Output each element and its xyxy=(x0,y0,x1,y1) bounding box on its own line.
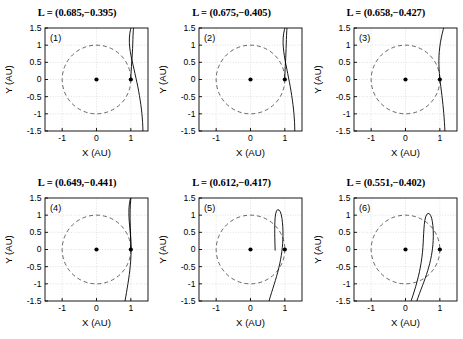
x-axis-label: X (AU) xyxy=(236,147,265,158)
y-tick-label: 1.5 xyxy=(184,23,196,33)
y-tick-label: -0.5 xyxy=(181,261,196,271)
sun-marker xyxy=(94,77,98,81)
y-tick-label: 1 xyxy=(345,210,350,220)
panel-number: (1) xyxy=(50,33,61,43)
y-axis-label: Y (AU) xyxy=(157,65,168,94)
y-axis-label: Y (AU) xyxy=(312,235,323,264)
sun-marker xyxy=(249,247,253,251)
y-tick-label: -1.5 xyxy=(181,295,196,305)
earth-marker xyxy=(129,247,133,251)
x-tick-label: -1 xyxy=(367,133,375,143)
x-tick-label: -1 xyxy=(58,133,66,143)
trajectory-panel-6: L = (0.551,−0.402)-1011.510.50-0.5-1-1.5… xyxy=(309,170,463,339)
trajectory-panel-1: L = (0.685,−0.395)-1011.510.50-0.5-1-1.5… xyxy=(0,0,154,170)
panel-row: L = (0.685,−0.395)-1011.510.50-0.5-1-1.5… xyxy=(0,0,463,170)
x-tick-label: 1 xyxy=(283,302,288,312)
y-tick-label: 0.5 xyxy=(338,227,350,237)
panel-plot: -1011.510.50-0.5-1-1.5X (AU)Y (AU)(3) xyxy=(309,0,463,170)
earth-marker xyxy=(437,77,441,81)
y-tick-label: 1 xyxy=(191,40,196,50)
panel-number: (2) xyxy=(204,33,215,43)
y-tick-label: -1 xyxy=(343,109,351,119)
y-tick-label: 0 xyxy=(191,75,196,85)
y-tick-label: 1 xyxy=(191,210,196,220)
sun-marker xyxy=(249,77,253,81)
x-tick-label: 1 xyxy=(437,133,442,143)
y-tick-label: 1 xyxy=(37,210,42,220)
y-tick-label: -1 xyxy=(343,278,351,288)
x-tick-label: 0 xyxy=(403,133,408,143)
y-tick-label: 0 xyxy=(191,244,196,254)
x-tick-label: 0 xyxy=(403,302,408,312)
y-tick-label: 0 xyxy=(345,75,350,85)
x-tick-label: -1 xyxy=(213,133,221,143)
trajectory-panel-2: L = (0.675,−0.405)-1011.510.50-0.5-1-1.5… xyxy=(154,0,308,170)
x-tick-label: -1 xyxy=(213,302,221,312)
sun-marker xyxy=(403,77,407,81)
x-tick-label: 1 xyxy=(283,133,288,143)
sun-marker xyxy=(94,247,98,251)
x-axis-label: X (AU) xyxy=(391,147,420,158)
panel-number: (4) xyxy=(50,203,61,213)
x-tick-label: 0 xyxy=(94,302,99,312)
trajectory-panel-4: L = (0.649,−0.441)-1011.510.50-0.5-1-1.5… xyxy=(0,170,154,339)
panel-plot: -1011.510.50-0.5-1-1.5X (AU)Y (AU)(2) xyxy=(154,0,308,170)
earth-marker xyxy=(129,77,133,81)
figure-panel-grid: L = (0.685,−0.395)-1011.510.50-0.5-1-1.5… xyxy=(0,0,463,339)
x-tick-label: 0 xyxy=(94,133,99,143)
y-tick-label: -0.5 xyxy=(27,261,42,271)
panel-row: L = (0.649,−0.441)-1011.510.50-0.5-1-1.5… xyxy=(0,170,463,339)
panel-number: (5) xyxy=(204,203,215,213)
y-tick-label: 1.5 xyxy=(338,193,350,203)
panel-plot: -1011.510.50-0.5-1-1.5X (AU)Y (AU)(4) xyxy=(0,170,154,339)
panel-plot: -1011.510.50-0.5-1-1.5X (AU)Y (AU)(6) xyxy=(309,170,463,339)
y-tick-label: -1 xyxy=(34,278,42,288)
y-tick-label: -1 xyxy=(34,109,42,119)
y-tick-label: 0 xyxy=(345,244,350,254)
trajectory-panel-5: L = (0.612,−0.417)-1011.510.50-0.5-1-1.5… xyxy=(154,170,308,339)
y-axis-label: Y (AU) xyxy=(157,235,168,264)
x-axis-label: X (AU) xyxy=(82,316,111,327)
trajectory-panel-3: L = (0.658,−0.427)-1011.510.50-0.5-1-1.5… xyxy=(309,0,463,170)
y-tick-label: -1 xyxy=(188,109,196,119)
y-tick-label: 1.5 xyxy=(30,23,42,33)
y-tick-label: -1.5 xyxy=(27,295,42,305)
x-tick-label: 1 xyxy=(128,302,133,312)
earth-marker xyxy=(283,247,287,251)
x-axis-label: X (AU) xyxy=(236,316,265,327)
panel-plot: -1011.510.50-0.5-1-1.5X (AU)Y (AU)(5) xyxy=(154,170,308,339)
y-tick-label: 0 xyxy=(37,244,42,254)
sun-marker xyxy=(403,247,407,251)
x-tick-label: 0 xyxy=(248,302,253,312)
y-tick-label: -1.5 xyxy=(181,126,196,136)
y-tick-label: 0.5 xyxy=(30,227,42,237)
y-axis-label: Y (AU) xyxy=(312,65,323,94)
x-axis-label: X (AU) xyxy=(391,316,420,327)
panel-number: (3) xyxy=(359,33,370,43)
y-tick-label: 1.5 xyxy=(30,193,42,203)
y-tick-label: 0.5 xyxy=(338,57,350,67)
y-tick-label: 1.5 xyxy=(184,193,196,203)
panel-plot: -1011.510.50-0.5-1-1.5X (AU)Y (AU)(1) xyxy=(0,0,154,170)
y-tick-label: 0.5 xyxy=(30,57,42,67)
x-tick-label: 1 xyxy=(437,302,442,312)
y-tick-label: -0.5 xyxy=(181,92,196,102)
panel-number: (6) xyxy=(359,203,370,213)
x-tick-label: 1 xyxy=(128,133,133,143)
y-tick-label: 1.5 xyxy=(338,23,350,33)
y-tick-label: 1 xyxy=(37,40,42,50)
y-tick-label: -1 xyxy=(188,278,196,288)
y-tick-label: -0.5 xyxy=(27,92,42,102)
earth-marker xyxy=(283,77,287,81)
y-tick-label: 0.5 xyxy=(184,227,196,237)
y-tick-label: -0.5 xyxy=(335,92,350,102)
y-tick-label: 0.5 xyxy=(184,57,196,67)
x-tick-label: -1 xyxy=(367,302,375,312)
y-tick-label: -1.5 xyxy=(27,126,42,136)
y-axis-label: Y (AU) xyxy=(3,65,14,94)
y-tick-label: -1.5 xyxy=(335,295,350,305)
y-tick-label: -0.5 xyxy=(335,261,350,271)
x-tick-label: -1 xyxy=(58,302,66,312)
earth-marker xyxy=(437,247,441,251)
y-axis-label: Y (AU) xyxy=(3,235,14,264)
